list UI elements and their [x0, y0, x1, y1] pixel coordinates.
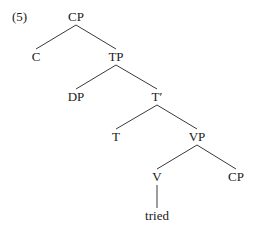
node-cp-complement: CP — [228, 170, 244, 184]
tree-edge — [116, 65, 157, 89]
node-tried: tried — [145, 209, 169, 223]
tree-edge — [197, 145, 236, 169]
tree-edge — [36, 25, 76, 49]
node-cp-root: CP — [68, 10, 84, 24]
tree-edge — [76, 25, 116, 49]
node-t-bar: T′ — [152, 90, 163, 104]
node-dp: DP — [68, 90, 85, 104]
tree-edge — [157, 105, 197, 129]
tree-edges — [0, 0, 257, 229]
tree-edge — [157, 145, 197, 169]
tree-edge — [116, 105, 157, 129]
node-vp: VP — [189, 130, 206, 144]
syntax-tree: (5) CP C TP DP T′ T VP V CP tried — [0, 0, 257, 229]
tree-edge — [76, 65, 116, 89]
example-number: (5) — [12, 10, 27, 24]
node-tp: TP — [108, 50, 123, 64]
node-t: T — [112, 130, 120, 144]
node-c: C — [32, 50, 41, 64]
node-v: V — [152, 170, 161, 184]
